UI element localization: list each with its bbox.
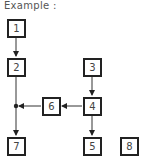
node-6: 6 — [42, 97, 61, 116]
node-7-label: 7 — [13, 141, 19, 152]
node-1: 1 — [7, 19, 26, 38]
junction-dot — [14, 104, 18, 108]
node-2: 2 — [7, 58, 26, 77]
node-3: 3 — [83, 58, 102, 77]
node-4: 4 — [83, 97, 102, 116]
node-5: 5 — [83, 137, 102, 156]
node-2-label: 2 — [13, 62, 19, 73]
node-8: 8 — [120, 137, 139, 156]
node-7: 7 — [7, 137, 26, 156]
node-3-label: 3 — [89, 62, 95, 73]
node-8-label: 8 — [126, 141, 132, 152]
node-1-label: 1 — [13, 23, 19, 34]
node-6-label: 6 — [48, 101, 54, 112]
node-5-label: 5 — [89, 141, 95, 152]
node-4-label: 4 — [89, 101, 95, 112]
